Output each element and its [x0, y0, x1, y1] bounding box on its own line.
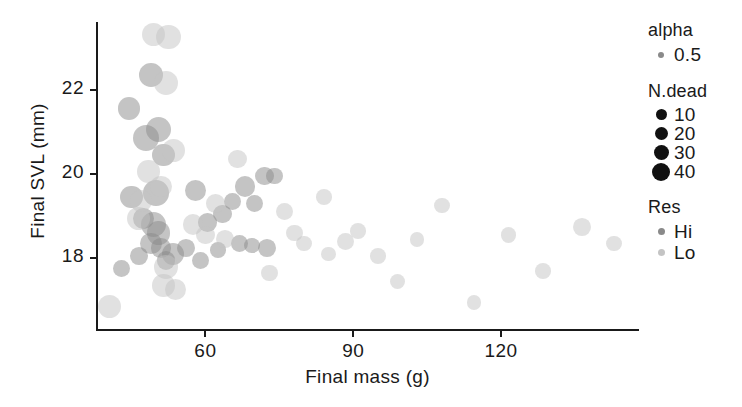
data-point — [228, 150, 247, 169]
data-point — [213, 205, 232, 224]
x-tick-mark — [352, 331, 354, 337]
data-point — [154, 255, 178, 279]
data-point — [152, 274, 175, 297]
data-point — [231, 235, 248, 252]
data-point — [350, 223, 366, 239]
legend-title-res: Res — [648, 197, 742, 218]
data-point — [147, 221, 170, 244]
y-tick-mark — [90, 173, 96, 175]
data-point — [501, 227, 517, 243]
legend-item-alpha-0: 0.5 — [648, 44, 742, 65]
data-point — [141, 212, 166, 237]
data-point — [216, 230, 234, 248]
data-point — [183, 214, 203, 234]
x-tick-label-90: 90 — [328, 340, 378, 362]
data-point — [98, 295, 121, 318]
legend-item-ndead-2: 30 — [648, 143, 742, 162]
data-point — [198, 213, 217, 232]
data-point — [139, 63, 163, 87]
plot-panel: 182022 6090120 Final SVL (mm) Final mass… — [0, 0, 742, 407]
legend-title-ndead: N.dead — [648, 81, 742, 102]
data-point — [151, 238, 171, 258]
legend-label-ndead-3: 40 — [674, 161, 696, 183]
legend-group-res: Res Hi Lo — [648, 197, 742, 263]
legend-group-ndead: N.dead 10 20 30 40 — [648, 81, 742, 181]
data-point — [467, 295, 481, 309]
data-point — [185, 180, 206, 201]
data-point — [316, 189, 332, 205]
data-point — [224, 193, 241, 210]
data-point — [127, 207, 150, 230]
legend-dot-icon — [648, 163, 674, 181]
data-point — [573, 218, 591, 236]
data-point — [296, 236, 312, 252]
x-axis-label: Final mass (g) — [96, 366, 639, 388]
data-point — [255, 167, 274, 186]
data-point — [113, 260, 130, 277]
data-point — [196, 226, 215, 245]
legend-dot-icon — [648, 109, 674, 120]
y-axis-line — [96, 22, 98, 331]
legend-label-alpha-0: 0.5 — [674, 44, 701, 66]
legend-label-res-lo: Lo — [674, 242, 696, 264]
data-point — [162, 243, 184, 265]
legend-dot-icon — [648, 145, 674, 160]
data-point — [177, 239, 195, 257]
data-point — [210, 242, 226, 258]
legend-dot-icon — [648, 228, 674, 235]
data-point — [118, 97, 141, 120]
data-point — [370, 248, 386, 264]
data-point — [130, 247, 148, 265]
data-point — [390, 274, 406, 290]
legend-dot-icon — [648, 127, 674, 140]
x-axis-line — [96, 329, 639, 331]
data-point — [133, 125, 159, 151]
legend-item-ndead-3: 40 — [648, 162, 742, 181]
y-tick-mark — [90, 257, 96, 259]
data-point — [276, 203, 293, 220]
x-tick-label-60: 60 — [180, 340, 230, 362]
data-point — [157, 251, 176, 270]
data-point — [261, 265, 278, 282]
legend: alpha 0.5 N.dead 10 20 30 40 — [648, 20, 742, 279]
data-point — [192, 252, 209, 269]
legend-dot-icon — [648, 52, 674, 58]
data-point — [150, 176, 171, 197]
data-point — [140, 233, 162, 255]
legend-group-alpha: alpha 0.5 — [648, 20, 742, 65]
y-tick-label-18: 18 — [44, 245, 84, 267]
data-point — [165, 279, 186, 300]
data-point — [258, 239, 276, 257]
data-point — [266, 168, 283, 185]
data-point — [130, 190, 152, 212]
y-tick-mark — [90, 89, 96, 91]
legend-item-res-lo: Lo — [648, 242, 742, 263]
data-point — [143, 180, 169, 206]
data-point — [410, 232, 424, 246]
legend-dot-icon — [648, 249, 674, 256]
legend-item-ndead-1: 20 — [648, 124, 742, 143]
x-tick-mark — [500, 331, 502, 337]
y-tick-label-22: 22 — [44, 77, 84, 99]
data-point — [434, 198, 450, 214]
legend-item-ndead-0: 10 — [648, 105, 742, 124]
data-point — [152, 144, 175, 167]
data-point — [235, 176, 255, 196]
data-point — [162, 139, 185, 162]
data-point — [337, 233, 354, 250]
data-point — [142, 23, 165, 46]
scatter-plot-figure: 182022 6090120 Final SVL (mm) Final mass… — [0, 0, 742, 407]
data-point — [606, 236, 622, 252]
data-point — [133, 208, 154, 229]
data-point — [146, 117, 172, 143]
data-point — [156, 25, 180, 49]
y-axis-label: Final SVL (mm) — [27, 71, 49, 271]
data-point — [321, 247, 335, 261]
y-tick-label-20: 20 — [44, 161, 84, 183]
data-point — [286, 225, 303, 242]
data-point — [120, 186, 143, 209]
data-point — [535, 263, 551, 279]
legend-title-alpha: alpha — [648, 20, 742, 41]
data-point — [137, 160, 160, 183]
data-point — [246, 195, 263, 212]
